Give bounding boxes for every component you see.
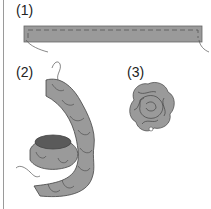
gathered-spiral: [16, 62, 94, 197]
illustration: [0, 0, 211, 209]
fabric-rosette: [130, 82, 175, 131]
fabric-strip: [24, 26, 209, 52]
